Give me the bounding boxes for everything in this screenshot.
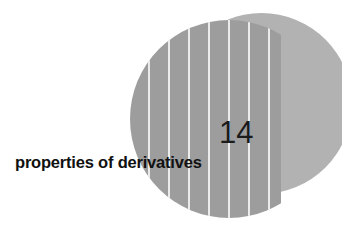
disc-vertical-stripes	[130, 20, 281, 218]
chapter-number: 14	[219, 116, 253, 150]
chapter-title: properties of derivatives	[15, 152, 202, 172]
striped-disc-shape	[130, 20, 281, 218]
chapter-title-page: 14 properties of derivatives	[0, 0, 352, 237]
